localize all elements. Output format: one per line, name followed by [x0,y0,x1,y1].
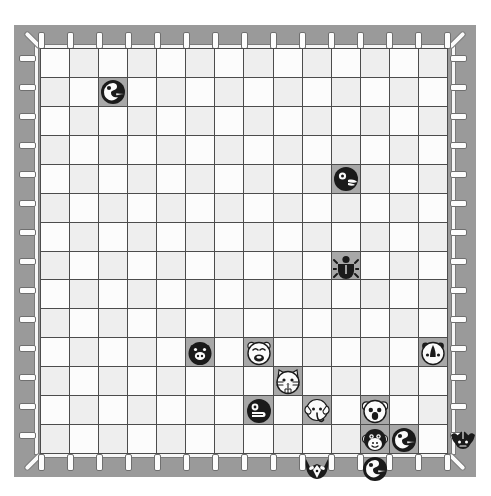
board-cell[interactable] [157,252,186,281]
board-cell[interactable] [361,367,390,396]
board-cell[interactable] [215,252,244,281]
board-cell[interactable] [157,78,186,107]
piece-fox[interactable] [304,456,330,482]
board-cell[interactable] [215,280,244,309]
board-cell[interactable] [70,309,99,338]
board-cell[interactable] [419,165,448,194]
board-cell[interactable] [303,367,332,396]
board-cell[interactable] [244,78,273,107]
board-cell[interactable] [419,49,448,78]
piece-bat[interactable] [450,427,476,453]
board-cell[interactable] [41,49,70,78]
board-cell[interactable] [215,107,244,136]
board-cell[interactable] [244,367,273,396]
board-cell[interactable] [41,194,70,223]
board-cell[interactable] [361,194,390,223]
board-cell[interactable] [332,425,361,454]
piece-monkey[interactable] [362,427,388,453]
board-cell[interactable] [186,396,215,425]
board-cell[interactable] [390,78,419,107]
board-cell[interactable] [128,49,157,78]
board-cell[interactable] [99,367,128,396]
board-cell[interactable] [186,49,215,78]
board-cell[interactable] [390,194,419,223]
board-cell[interactable] [274,425,303,454]
board-cell[interactable] [244,136,273,165]
board-cell[interactable] [128,78,157,107]
board-cell[interactable] [70,78,99,107]
board-cell[interactable] [215,165,244,194]
piece-koala[interactable] [362,398,388,424]
board-cell[interactable] [215,425,244,454]
board-cell[interactable] [244,223,273,252]
board-cell[interactable] [128,396,157,425]
board-cell[interactable] [215,194,244,223]
board-cell[interactable] [390,223,419,252]
board-cell[interactable] [390,165,419,194]
board-cell[interactable] [70,223,99,252]
board-cell[interactable] [361,309,390,338]
board-cell[interactable] [244,425,273,454]
board-cell[interactable] [274,252,303,281]
board-cell[interactable] [99,136,128,165]
board-cell[interactable] [41,223,70,252]
board-cell[interactable] [70,367,99,396]
board-cell[interactable] [390,136,419,165]
board-cell[interactable] [41,396,70,425]
piece-seal[interactable] [246,398,272,424]
board-cell[interactable] [186,165,215,194]
board-cell[interactable] [99,252,128,281]
board-cell[interactable] [70,396,99,425]
board-cell[interactable] [332,223,361,252]
board-cell[interactable] [186,252,215,281]
board-cell[interactable] [244,280,273,309]
board-cell[interactable] [128,367,157,396]
board-cell[interactable] [41,280,70,309]
board-cell[interactable] [157,107,186,136]
board-cell[interactable] [70,136,99,165]
board-cell[interactable] [70,252,99,281]
board-cell[interactable] [70,49,99,78]
board-cell[interactable] [419,136,448,165]
board-cell[interactable] [157,280,186,309]
board-cell[interactable] [332,194,361,223]
piece-fish[interactable] [333,166,359,192]
board-cell[interactable] [274,78,303,107]
board-cell[interactable] [361,78,390,107]
board-cell[interactable] [361,338,390,367]
board-cell[interactable] [303,280,332,309]
board-cell[interactable] [419,223,448,252]
board-cell[interactable] [157,136,186,165]
board-cell[interactable] [419,194,448,223]
board-cell[interactable] [157,165,186,194]
board-cell[interactable] [274,107,303,136]
board-cell[interactable] [303,338,332,367]
board-cell[interactable] [70,280,99,309]
board-cell[interactable] [303,78,332,107]
board-cell[interactable] [186,78,215,107]
board-cell[interactable] [186,309,215,338]
board-cell[interactable] [361,223,390,252]
board-cell[interactable] [303,49,332,78]
board-cell[interactable] [186,194,215,223]
board-cell[interactable] [70,338,99,367]
board-cell[interactable] [41,136,70,165]
board-cell[interactable] [274,280,303,309]
board-cell[interactable] [157,309,186,338]
board-cell[interactable] [419,367,448,396]
board-cell[interactable] [361,165,390,194]
board-cell[interactable] [303,136,332,165]
board-cell[interactable] [244,107,273,136]
board-cell[interactable] [186,280,215,309]
board-cell[interactable] [99,223,128,252]
board-cell[interactable] [128,165,157,194]
board-cell[interactable] [419,252,448,281]
board-cell[interactable] [332,309,361,338]
board-grid[interactable] [40,48,448,454]
board-cell[interactable] [419,396,448,425]
board-cell[interactable] [215,396,244,425]
board-cell[interactable] [274,338,303,367]
board-cell[interactable] [41,425,70,454]
board-cell[interactable] [390,280,419,309]
board-cell[interactable] [361,252,390,281]
